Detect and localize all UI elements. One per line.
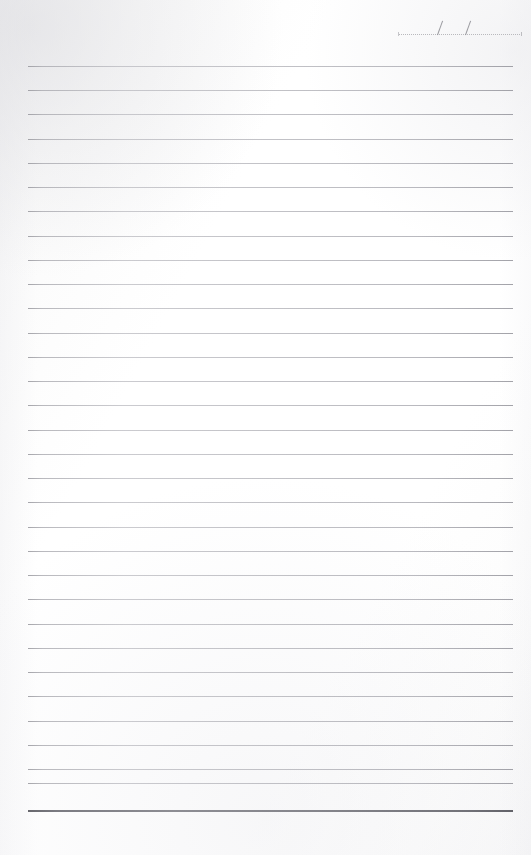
ruled-line [28, 357, 513, 358]
footer-rule [28, 810, 513, 812]
ruled-line [28, 139, 513, 140]
ruled-line [28, 599, 513, 600]
ruled-line [28, 478, 513, 479]
ruled-line [28, 648, 513, 649]
ruled-line [28, 551, 513, 552]
ruled-line [28, 333, 513, 334]
ruled-line [28, 163, 513, 164]
ruled-line [28, 381, 513, 382]
ruled-line [28, 575, 513, 576]
ruled-line [28, 260, 513, 261]
ruled-line [28, 114, 513, 115]
ruled-line [28, 502, 513, 503]
ruled-line [28, 454, 513, 455]
note-page [0, 0, 531, 855]
ruled-line [28, 769, 513, 770]
ruled-line [28, 211, 513, 212]
ruled-line [28, 721, 513, 722]
ruled-line [28, 90, 513, 91]
ruled-line [28, 284, 513, 285]
ruled-line [28, 783, 513, 784]
ruled-line [28, 745, 513, 746]
ruled-line [28, 187, 513, 188]
ruled-line [28, 430, 513, 431]
ruled-line [28, 66, 513, 67]
ruled-line [28, 672, 513, 673]
ruled-line [28, 624, 513, 625]
ruled-line [28, 308, 513, 309]
ruled-lines-container [0, 0, 531, 855]
ruled-line [28, 527, 513, 528]
ruled-line [28, 236, 513, 237]
ruled-line [28, 696, 513, 697]
ruled-line [28, 405, 513, 406]
